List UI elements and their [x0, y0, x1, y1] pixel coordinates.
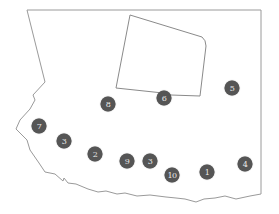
map-marker-8[interactable]: 8	[101, 97, 116, 112]
map-marker-7[interactable]: 7	[32, 119, 47, 134]
map-marker-2[interactable]: 2	[88, 147, 103, 162]
map-marker-4[interactable]: 4	[238, 157, 253, 172]
parcel-outline	[0, 0, 279, 214]
map-marker-3[interactable]: 3	[143, 154, 158, 169]
map-marker-5[interactable]: 5	[225, 81, 240, 96]
site-map	[0, 0, 279, 214]
map-marker-10[interactable]: 10	[165, 168, 180, 183]
map-marker-6[interactable]: 6	[157, 91, 172, 106]
map-marker-9[interactable]: 9	[120, 154, 135, 169]
map-marker-3[interactable]: 3	[57, 134, 72, 149]
map-marker-1[interactable]: 1	[200, 165, 215, 180]
